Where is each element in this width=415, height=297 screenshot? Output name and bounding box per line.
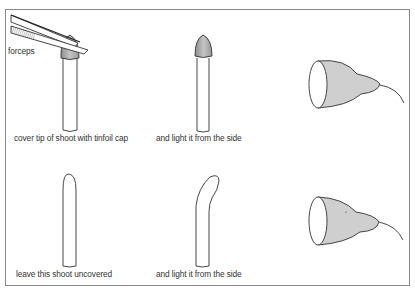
caption-uncovered-shoot-lit: and light it from the side <box>156 269 242 279</box>
uncovered-shoot-figure <box>63 174 76 267</box>
tinfoil-cap <box>195 35 212 58</box>
shoot-stem <box>196 176 219 267</box>
caption-uncovered-shoot: leave this shoot uncovered <box>16 269 112 279</box>
diagram-artwork <box>0 0 415 297</box>
shoot-stem <box>197 58 209 132</box>
shoot-stem <box>63 174 76 267</box>
caption-covered-shoot: cover tip of shoot with tinfoil cap <box>14 133 128 143</box>
shoot-stem <box>63 58 77 132</box>
uncovered-shoot-lit-figure <box>196 176 219 267</box>
covered-shoot-lit-figure <box>195 35 212 132</box>
caption-covered-shoot-lit: and light it from the side <box>156 133 242 143</box>
lamp-icon <box>309 61 404 108</box>
lamp-icon <box>309 197 403 245</box>
forceps-label: forceps <box>8 46 35 56</box>
